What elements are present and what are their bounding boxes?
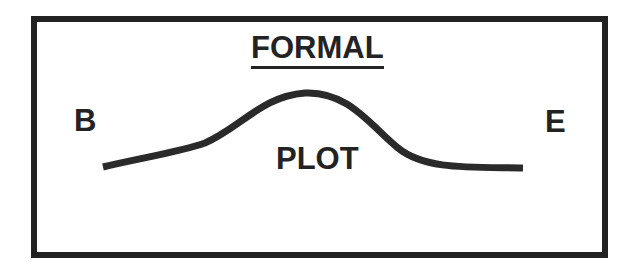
end-label: E [545,106,566,137]
diagram-title: FORMAL [251,32,384,69]
curve-label: PLOT [276,143,359,174]
start-label: B [74,105,96,136]
